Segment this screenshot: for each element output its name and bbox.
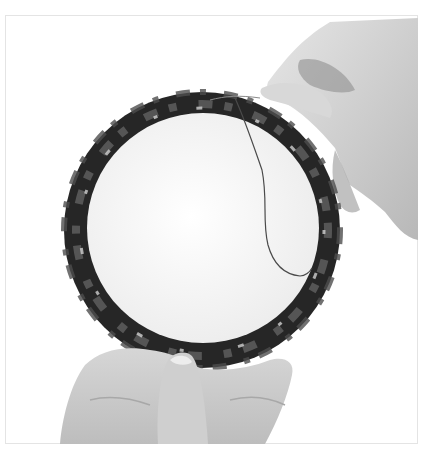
left-hand — [60, 348, 293, 444]
fabric-ring — [64, 92, 340, 368]
photo — [0, 0, 443, 464]
